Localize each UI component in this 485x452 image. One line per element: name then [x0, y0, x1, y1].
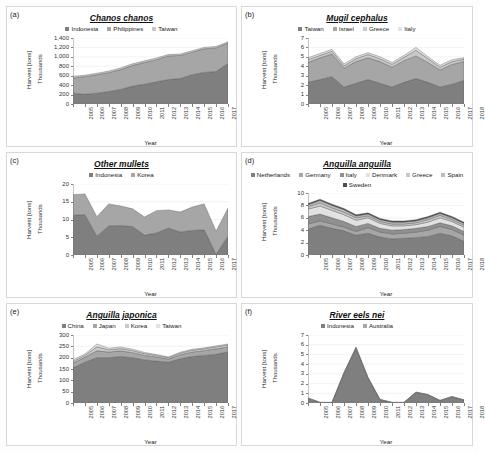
x-axis-tick-label: 2013 [419, 406, 425, 418]
legend-item[interactable]: Indonesia [321, 322, 354, 329]
x-axis-tick [356, 255, 357, 258]
x-axis-tick [344, 403, 345, 406]
y-axis-tick-label: 10 [43, 216, 69, 222]
y-axis-tick [306, 335, 309, 336]
legend-item[interactable]: Netherlands [251, 171, 290, 178]
x-axis-tick [308, 255, 309, 258]
y-axis-tick-label: 50 [43, 388, 69, 394]
legend-swatch-icon [107, 27, 111, 31]
legend-swatch-icon [363, 27, 367, 31]
x-axis-tick-label: 2018 [479, 107, 485, 119]
x-axis-tick [97, 104, 98, 107]
y-axis-tick [306, 374, 309, 375]
x-axis-tick [404, 403, 405, 406]
x-axis-tick-label: 2015 [443, 107, 449, 119]
legend-item[interactable]: Greece [363, 25, 389, 32]
legend-item[interactable]: Israel [333, 25, 354, 32]
x-axis-tick-label: 2005 [88, 258, 94, 270]
x-axis-tick-label: 2013 [419, 258, 425, 270]
legend-item[interactable]: Australia [363, 322, 393, 329]
plot-area [308, 335, 464, 403]
panel-title: Anguilla japonica [7, 310, 236, 320]
legend-swatch-icon [152, 27, 156, 31]
y-axis-tick-label: 1,400 [43, 35, 69, 41]
x-axis-tick-label: 2014 [195, 107, 201, 119]
x-axis-tick-label: 2012 [407, 107, 413, 119]
legend-item[interactable]: Philippines [107, 25, 143, 32]
x-axis-tick-label: 2005 [88, 406, 94, 418]
y-axis-tick [71, 380, 74, 381]
x-axis-tick-label: 2006 [100, 258, 106, 270]
x-axis-tick [216, 104, 217, 107]
y-axis-tick-label: 8 [278, 202, 304, 208]
x-axis-tick-label: 2012 [407, 406, 413, 418]
legend-item[interactable]: Italy [398, 25, 415, 32]
x-axis-tick-label: 2016 [455, 107, 461, 119]
x-axis-tick-label: 2008 [124, 258, 130, 270]
legend-item[interactable]: Germany [299, 171, 330, 178]
x-axis-tick [145, 255, 146, 258]
legend-item[interactable]: Korea [125, 322, 148, 329]
y-axis-title: Harvest [tons] [260, 51, 267, 89]
x-axis-tick [133, 255, 134, 258]
y-axis-tick [71, 66, 74, 67]
x-axis-tick-label: 2011 [159, 107, 165, 119]
legend-item[interactable]: Indonesia [65, 25, 98, 32]
y-axis-title: Harvest [tons] [25, 201, 32, 239]
x-axis-tick-label: 2005 [88, 107, 94, 119]
x-axis-tick-label: 2008 [124, 107, 130, 119]
legend-label: Taiwan [162, 322, 181, 329]
legend-item[interactable]: Indonesia [89, 171, 122, 178]
legend-item[interactable]: Italy [340, 171, 357, 178]
legend-item[interactable]: Japan [93, 322, 116, 329]
legend-item[interactable]: China [62, 322, 84, 329]
legend-label: Germany [305, 171, 330, 178]
x-axis-tick [216, 255, 217, 258]
legend-item[interactable]: Sweden [343, 181, 371, 188]
x-axis-tick [440, 255, 441, 258]
x-axis-tick [145, 104, 146, 107]
x-axis-tick-label: 2010 [383, 406, 389, 418]
legend-swatch-icon [156, 324, 160, 328]
y-axis-tick-label: 0 [278, 400, 304, 406]
x-axis-tick [192, 255, 193, 258]
x-axis-tick [452, 255, 453, 258]
legend-item[interactable]: Taiwan [152, 25, 177, 32]
y-axis-tick-label: 15 [43, 198, 69, 204]
y-axis-tick [306, 345, 309, 346]
x-axis-tick [156, 255, 157, 258]
legend-swatch-icon [62, 324, 66, 328]
x-axis-tick-label: 2008 [359, 258, 365, 270]
legend-item[interactable]: Korea [131, 171, 154, 178]
x-axis-tick [121, 403, 122, 406]
legend-item[interactable]: Greece [406, 171, 432, 178]
legend-label: Italy [346, 171, 357, 178]
x-axis-tick-label: 2010 [383, 258, 389, 270]
x-axis-tick-label: 2007 [347, 258, 353, 270]
legend-item[interactable]: Spain [441, 171, 463, 178]
x-axis-tick-label: 2013 [419, 107, 425, 119]
legend-item[interactable]: Taiwan [298, 25, 323, 32]
x-axis-tick-label: 2009 [371, 406, 377, 418]
x-axis-tick-label: 2008 [124, 406, 130, 418]
x-axis-tick [109, 104, 110, 107]
plot-area [308, 193, 464, 255]
x-axis-tick-label: 2011 [395, 258, 401, 270]
x-axis-tick-label: 2016 [219, 406, 225, 418]
x-axis-tick-label: 2015 [207, 258, 213, 270]
x-axis-tick-label: 2014 [195, 406, 201, 418]
x-axis-tick-label: 2006 [335, 406, 341, 418]
y-axis-tick [71, 369, 74, 370]
y-axis-tick-label: 300 [43, 332, 69, 338]
legend-item[interactable]: Taiwan [156, 322, 181, 329]
x-axis-tick-label: 2008 [359, 107, 365, 119]
x-axis-title: Year [308, 139, 464, 146]
x-axis-tick-label: 2007 [112, 107, 118, 119]
legend-item[interactable]: Denmark [366, 171, 397, 178]
y-axis-tick-label: 3 [278, 72, 304, 78]
x-axis-tick-label: 2011 [159, 406, 165, 418]
x-axis-tick [416, 104, 417, 107]
x-axis-tick-label: 2015 [207, 406, 213, 418]
y-axis-title: Harvest [tons] [25, 51, 32, 89]
x-axis-tick [180, 255, 181, 258]
